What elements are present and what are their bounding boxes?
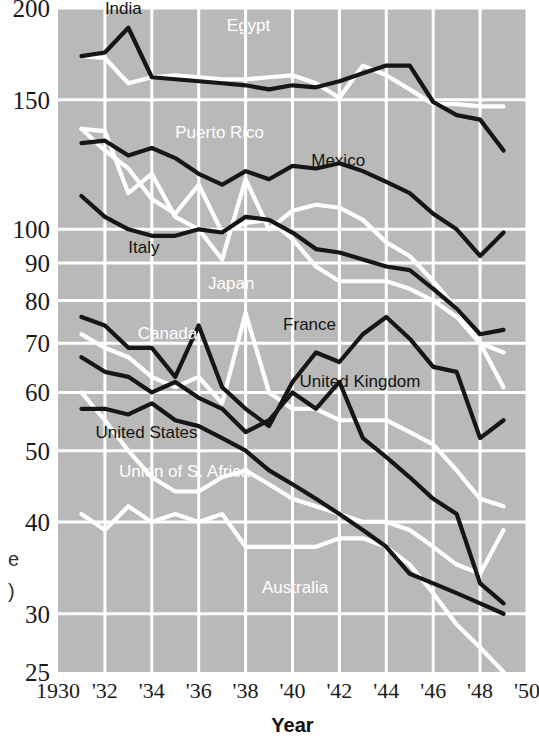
x-axis-title: Year — [271, 714, 313, 736]
y-tick-label: 150 — [13, 87, 51, 114]
x-tick-label: '32 — [92, 678, 118, 703]
x-tick-label: '34 — [139, 678, 165, 703]
line-chart: IndiaEgyptPuerto RicoMexicoItalyJapanFra… — [0, 0, 539, 744]
series-label-union-of-s-africa: Union of S. Africa — [119, 462, 251, 481]
y-tick-label: 80 — [25, 288, 50, 315]
series-label-united-kingdom: United Kingdom — [300, 372, 421, 391]
x-tick-label: '48 — [467, 678, 493, 703]
series-label-puerto-rico: Puerto Rico — [175, 123, 264, 142]
x-tick-label: '44 — [373, 678, 399, 703]
series-label-india: India — [105, 0, 142, 18]
y-tick-label: 60 — [25, 379, 50, 406]
y-tick-label: 30 — [25, 601, 50, 628]
clipped-ylabel-fragment-1: e — [8, 548, 19, 570]
y-tick-label: 50 — [25, 438, 50, 465]
x-tick-label: 1930 — [36, 678, 80, 703]
y-tick-label: 100 — [13, 216, 51, 243]
series-label-united-states: United States — [96, 423, 198, 442]
y-tick-label: 40 — [25, 509, 50, 536]
x-axis-tick-labels: 1930'32'34'36'38'40'42'44'46'48'50 — [36, 678, 539, 703]
y-tick-label: 70 — [25, 330, 50, 357]
y-axis-tick-labels: 2001501009080706050403025 — [13, 0, 51, 686]
x-tick-label: '46 — [420, 678, 446, 703]
series-label-france: France — [283, 315, 336, 334]
x-tick-label: '40 — [280, 678, 306, 703]
clipped-ylabel-fragment-2: ) — [8, 580, 15, 602]
y-tick-label: 90 — [25, 250, 50, 277]
series-label-italy: Italy — [128, 238, 160, 257]
series-label-canada: Canada — [138, 324, 198, 343]
series-label-mexico: Mexico — [311, 151, 365, 170]
x-tick-label: '50 — [514, 678, 539, 703]
x-tick-label: '36 — [186, 678, 212, 703]
series-label-egypt: Egypt — [227, 16, 271, 35]
series-label-australia: Australia — [262, 578, 329, 597]
y-tick-label: 200 — [13, 0, 51, 22]
x-tick-label: '42 — [326, 678, 352, 703]
series-label-japan: Japan — [208, 274, 254, 293]
chart-root: IndiaEgyptPuerto RicoMexicoItalyJapanFra… — [0, 0, 539, 744]
x-tick-label: '38 — [233, 678, 259, 703]
